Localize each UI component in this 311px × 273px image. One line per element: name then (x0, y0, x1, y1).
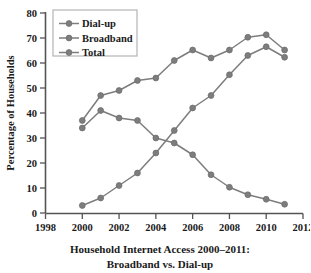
data-point (153, 150, 159, 156)
y-tick-label: 60 (27, 58, 38, 69)
data-point (190, 152, 196, 158)
legend-label: Broadband (82, 33, 133, 44)
data-point (153, 75, 159, 81)
data-point (208, 172, 214, 178)
data-point (98, 108, 104, 114)
data-point (190, 105, 196, 111)
chart-title-line1: Household Internet Access 2000–2011: (70, 243, 250, 255)
data-point (263, 44, 269, 50)
data-point (263, 32, 269, 38)
x-tick-label: 2006 (182, 222, 203, 233)
data-point (98, 93, 104, 99)
legend-marker-icon (66, 35, 72, 41)
data-point (282, 201, 288, 207)
line-chart: 01020304050607080 1998200020022004200620… (0, 0, 310, 273)
x-tick-label: 2002 (109, 222, 130, 233)
data-point (190, 47, 196, 53)
data-point (171, 140, 177, 146)
x-tick-label: 1998 (35, 222, 56, 233)
data-point (135, 118, 141, 124)
data-point (227, 72, 233, 78)
data-point (282, 47, 288, 53)
y-tick-label: 20 (27, 158, 38, 169)
data-point (116, 115, 122, 121)
data-point (79, 203, 85, 209)
data-point (79, 125, 85, 131)
data-point (208, 55, 214, 61)
y-tick-label: 50 (27, 83, 38, 94)
y-tick-label: 70 (27, 33, 38, 44)
data-point (171, 58, 177, 64)
y-axis-title: Percentage of Households (5, 55, 16, 170)
y-tick-label: 0 (32, 208, 37, 219)
data-point (263, 196, 269, 202)
chart-title-line2: Broadband vs. Dial-up (107, 258, 213, 270)
data-point (153, 135, 159, 141)
data-point (227, 47, 233, 53)
legend-marker-icon (66, 21, 72, 27)
data-point (135, 170, 141, 176)
data-point (245, 53, 251, 59)
legend-marker-icon (66, 50, 72, 56)
data-point (135, 78, 141, 84)
data-point (171, 128, 177, 134)
x-tick-label: 2008 (219, 222, 240, 233)
chart-legend: Dial-upBroadbandTotal (53, 10, 137, 58)
y-tick-label: 40 (27, 108, 38, 119)
data-point (282, 54, 288, 60)
chart-container: 01020304050607080 1998200020022004200620… (0, 0, 310, 273)
data-point (245, 34, 251, 40)
data-point (245, 192, 251, 198)
x-tick-label: 2010 (256, 222, 277, 233)
y-tick-label: 10 (27, 183, 38, 194)
data-point (98, 195, 104, 201)
data-point (227, 184, 233, 190)
y-tick-label: 80 (27, 8, 38, 19)
x-tick-label: 2004 (145, 222, 167, 233)
x-tick-label: 2012 (293, 222, 311, 233)
data-point (208, 93, 214, 99)
x-tick-label: 2000 (72, 222, 93, 233)
data-point (79, 118, 85, 124)
data-point (116, 88, 122, 94)
data-point (116, 183, 122, 189)
legend-label: Dial-up (82, 18, 116, 29)
y-tick-label: 30 (27, 133, 38, 144)
legend-label: Total (82, 47, 105, 58)
